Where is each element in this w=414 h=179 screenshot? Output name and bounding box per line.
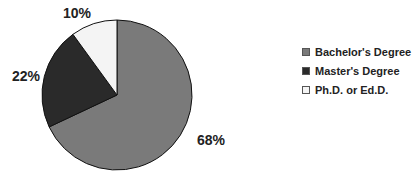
phd-percent-label: 10% bbox=[63, 5, 91, 21]
legend-item-masters: Master's Degree bbox=[302, 61, 411, 80]
phd-swatch bbox=[302, 86, 310, 94]
legend: Bachelor's Degree Master's Degree Ph.D. … bbox=[302, 42, 411, 99]
legend-label: Ph.D. or Ed.D. bbox=[315, 84, 388, 96]
bachelors-percent-label: 68% bbox=[197, 132, 225, 148]
masters-swatch bbox=[302, 67, 310, 75]
masters-percent-label: 22% bbox=[12, 68, 40, 84]
legend-item-bachelors: Bachelor's Degree bbox=[302, 42, 411, 61]
bachelors-swatch bbox=[302, 48, 310, 56]
legend-label: Master's Degree bbox=[315, 65, 400, 77]
legend-label: Bachelor's Degree bbox=[315, 46, 411, 58]
legend-item-phd: Ph.D. or Ed.D. bbox=[302, 80, 411, 99]
